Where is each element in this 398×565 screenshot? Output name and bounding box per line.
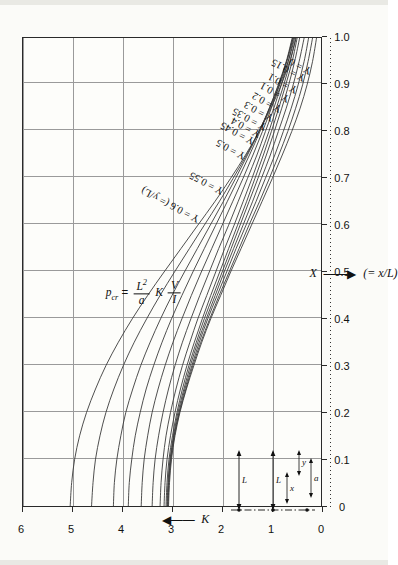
x-axis-symbol: X — [309, 266, 316, 280]
inset-arrowhead-10 — [309, 492, 313, 497]
x-tick-label: 0.9 — [327, 78, 357, 90]
y-tick-mark — [122, 507, 123, 512]
x-tick-label: 0.8 — [327, 125, 357, 137]
y-tick-label: 2 — [209, 523, 233, 535]
formula-annotation: pcr = L2 a K V I — [106, 278, 183, 307]
formula-lhs: pcr — [106, 286, 119, 298]
inset-label-y: y — [301, 456, 306, 466]
y-tick-mark — [72, 507, 73, 512]
inset-arrowhead-6 — [285, 498, 289, 503]
inset-arrowhead-5 — [285, 471, 289, 476]
y-tick-mark — [222, 507, 223, 512]
inset-label-x: x — [289, 482, 294, 492]
inset-arrowhead-3 — [270, 449, 275, 455]
y-tick-label: 6 — [9, 523, 33, 535]
y-axis-title: ◀—— K — [162, 511, 210, 526]
rotated-figure-wrapper: Y = 0.6 (= y/L)Y = 0.55Y = 0.5Y = 0.45Y … — [8, 13, 380, 553]
y-tick-label: 4 — [109, 523, 133, 535]
inset-node-3 — [305, 507, 309, 511]
inset-label-L-right: L — [275, 474, 281, 484]
formula-frac1-den: a — [133, 294, 150, 307]
x-tick-label: 0.4 — [327, 313, 357, 325]
x-tick-label: 1.0 — [327, 31, 357, 43]
formula-frac2-num: V — [168, 279, 181, 293]
inset-arrowhead-9 — [309, 457, 313, 462]
x-tick-label: 0 — [327, 501, 357, 513]
x-tick-label: 0.3 — [327, 360, 357, 372]
x-tick-label: 0.6 — [327, 219, 357, 231]
inset-arrowhead-4 — [270, 503, 275, 509]
y-tick-mark — [322, 507, 323, 512]
formula-fraction-2: V I — [168, 279, 181, 306]
x-axis-paren: (= x/L) — [363, 266, 397, 280]
scan-edge-bottom — [0, 560, 388, 565]
inset-arrowhead-2 — [236, 503, 241, 509]
formula-fraction-1: L2 a — [133, 278, 150, 307]
x-tick-label: 0.7 — [327, 172, 357, 184]
formula-equals: = — [121, 286, 128, 298]
x-tick-label: 0.2 — [327, 407, 357, 419]
chart-figure: Y = 0.6 (= y/L)Y = 0.55Y = 0.5Y = 0.45Y … — [8, 13, 380, 553]
inset-arrowhead-1 — [236, 449, 241, 455]
inset-label-a: a — [314, 472, 319, 482]
scan-edge-top — [0, 0, 388, 5]
x-axis-arrow: ——▶ — [320, 267, 360, 281]
plot-area: Y = 0.6 (= y/L)Y = 0.55Y = 0.5Y = 0.45Y … — [22, 37, 322, 507]
formula-k: K — [155, 286, 163, 298]
y-tick-mark — [22, 507, 23, 512]
inset-beam-diagram: L L x y — [225, 443, 321, 517]
inset-arrowhead-7 — [297, 449, 301, 454]
y-axis-symbol: K — [201, 511, 209, 525]
y-tick-label: 1 — [259, 523, 283, 535]
inset-label-L-left: L — [241, 474, 247, 484]
y-axis-arrow: ◀—— — [162, 512, 198, 526]
inset-svg: L L x y — [225, 443, 321, 517]
x-tick-label: 0.1 — [327, 454, 357, 466]
x-axis-title: X ——▶ (= x/L) — [309, 266, 397, 281]
inset-arrowhead-8 — [297, 470, 301, 475]
y-tick-label: 5 — [59, 523, 83, 535]
formula-frac1-num: L2 — [133, 278, 150, 294]
y-tick-label: 0 — [309, 523, 333, 535]
formula-frac2-den: I — [168, 293, 181, 306]
